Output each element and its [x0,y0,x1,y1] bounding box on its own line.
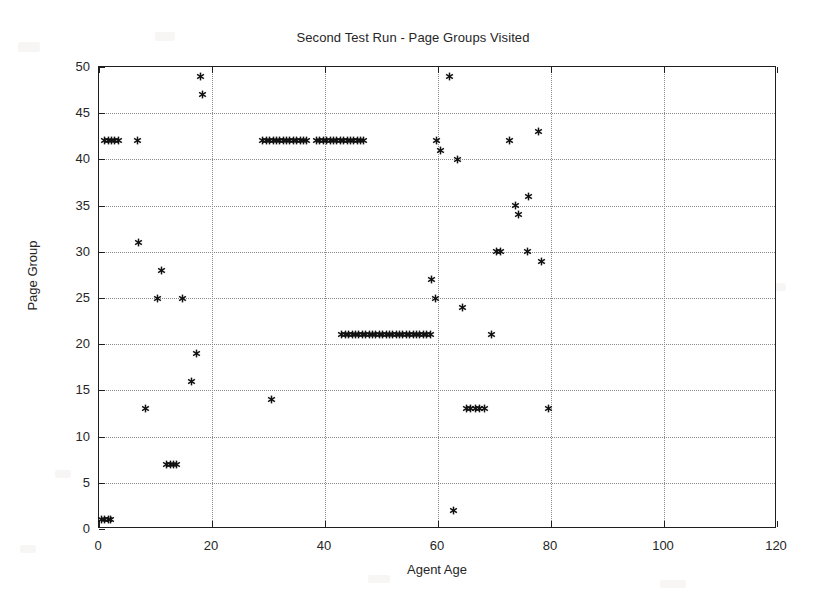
gridline-horizontal [99,298,775,299]
y-tick-label: 30 [76,243,90,258]
gridline-horizontal [99,390,775,391]
y-tick-mark [99,252,105,253]
data-point-marker [107,136,116,145]
data-point-marker [110,136,119,145]
data-point-marker [322,136,331,145]
gridline-vertical [438,67,439,527]
x-tick-mark-top [99,67,100,73]
data-point-marker [341,330,350,339]
data-point-marker [296,136,305,145]
data-point-marker [385,330,394,339]
gridline-vertical [551,67,552,527]
y-tick-mark [99,390,105,391]
x-tick-label: 40 [317,538,331,553]
data-point-marker [332,136,341,145]
data-point-marker [100,136,109,145]
gridline-horizontal [99,113,775,114]
data-point-marker [382,330,391,339]
gridline-horizontal [99,159,775,160]
x-tick-mark [438,521,439,527]
y-tick-label: 25 [76,290,90,305]
x-tick-mark [551,521,552,527]
x-tick-mark-top [664,67,665,73]
data-point-marker [349,136,358,145]
data-point-marker [426,330,435,339]
x-tick-label: 80 [543,538,557,553]
data-point-marker [422,330,431,339]
data-point-marker [312,136,321,145]
data-point-marker [279,136,288,145]
x-tick-label: 20 [204,538,218,553]
data-point-marker [462,404,471,413]
data-point-marker [162,460,171,469]
x-tick-mark-top [551,67,552,73]
x-tick-mark [99,521,100,527]
y-tick-mark [99,437,105,438]
data-point-marker [475,404,484,413]
data-point-marker [346,136,355,145]
data-point-marker [445,72,454,81]
data-point-marker [285,136,294,145]
scatter-plot-figure: Second Test Run - Page Groups Visited 05… [0,0,826,598]
data-point-marker [269,136,278,145]
y-tick-label: 35 [76,197,90,212]
data-point-marker [169,460,178,469]
gridline-horizontal [99,252,775,253]
data-point-marker [402,330,411,339]
x-tick-mark [212,521,213,527]
data-point-marker [100,515,109,524]
gridline-horizontal [99,206,775,207]
data-point-marker [388,330,397,339]
data-point-marker [405,330,414,339]
data-point-marker [267,395,276,404]
gridline-horizontal [99,437,775,438]
data-point-marker [392,330,401,339]
y-tick-label: 10 [76,428,90,443]
data-point-marker [537,257,546,266]
data-point-marker [480,404,489,413]
gridline-horizontal [99,344,775,345]
data-point-marker [419,330,428,339]
y-tick-mark [99,483,105,484]
y-axis-title: Page Group [25,216,40,336]
x-tick-mark [664,521,665,527]
y-tick-label: 50 [76,59,90,74]
y-tick-label: 20 [76,336,90,351]
data-point-marker [375,330,384,339]
data-point-marker [336,136,345,145]
x-tick-mark [325,521,326,527]
data-point-marker [358,330,367,339]
y-tick-label: 0 [83,521,90,536]
data-point-marker [415,330,424,339]
data-point-marker [356,136,365,145]
data-point-marker [514,210,523,219]
data-point-marker [114,136,123,145]
data-point-marker [524,192,533,201]
x-tick-label: 120 [765,538,787,553]
data-point-marker [427,275,436,284]
data-point-marker [337,330,346,339]
x-tick-label: 60 [430,538,444,553]
y-tick-label: 5 [83,474,90,489]
y-axis-tick-labels: 05101520253035404550 [48,66,90,528]
x-tick-label: 0 [94,538,101,553]
data-point-marker [395,330,404,339]
y-tick-mark [99,206,105,207]
data-point-marker [265,136,274,145]
data-point-marker [134,238,143,247]
chart-title: Second Test Run - Page Groups Visited [0,30,826,45]
data-point-marker [449,506,458,515]
y-tick-mark [99,159,105,160]
data-point-marker [196,72,205,81]
data-point-marker [458,303,467,312]
data-point-marker [354,330,363,339]
data-point-marker [166,460,175,469]
data-point-marker [505,136,514,145]
data-point-marker [398,330,407,339]
y-tick-mark [99,298,105,299]
data-point-marker [353,136,362,145]
y-tick-label: 15 [76,382,90,397]
data-point-marker [361,330,370,339]
x-tick-label: 100 [652,538,674,553]
data-point-marker [326,136,335,145]
